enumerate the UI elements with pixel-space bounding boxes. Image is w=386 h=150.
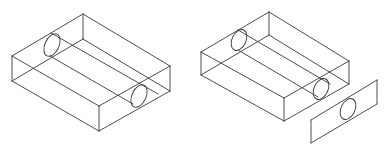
box-edge	[201, 12, 269, 52]
hole-line	[238, 50, 318, 97]
right-block-drawing	[201, 12, 377, 143]
box-edge	[269, 12, 349, 61]
isometric-diagram	[0, 0, 386, 150]
box-edge	[12, 14, 83, 56]
left-block-drawing	[12, 14, 170, 131]
box-edge	[269, 35, 349, 84]
plate-edge	[311, 104, 377, 143]
box-edge	[201, 35, 269, 75]
box-edge	[201, 75, 284, 121]
box-edge	[284, 61, 349, 98]
hole-line	[50, 56, 133, 104]
plate-hole-ellipse	[337, 96, 359, 122]
hole-ellipse	[310, 76, 332, 102]
box-edge	[83, 39, 170, 91]
hole-line	[238, 30, 330, 84]
figure-canvas	[0, 0, 386, 150]
box-edge	[12, 81, 99, 131]
box-edge	[12, 56, 99, 106]
hole-ellipse	[41, 31, 64, 59]
box-edge	[99, 91, 170, 131]
box-edge	[99, 66, 170, 106]
box-edge	[201, 52, 284, 98]
hole-ellipse	[128, 82, 151, 110]
